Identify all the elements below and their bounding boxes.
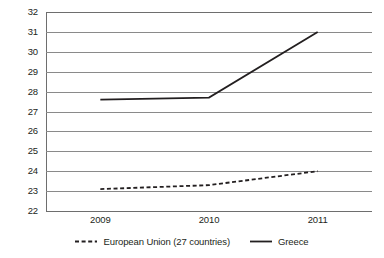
y-tick-label-29: 29 <box>0 67 38 77</box>
x-tick-label-2011: 2011 <box>308 214 328 225</box>
x-tick-label-2009: 2009 <box>90 214 111 225</box>
chart-legend: European Union (27 countries)Greece <box>0 232 384 250</box>
y-tick-label-27: 27 <box>0 107 38 117</box>
x-tick-label-2010: 2010 <box>199 214 220 225</box>
legend-entry-1[interactable]: European Union (27 countries) <box>75 236 229 247</box>
y-tick-label-28: 28 <box>0 87 38 97</box>
legend-label: Greece <box>278 236 309 247</box>
plot-area <box>46 12 372 211</box>
legend-label: European Union (27 countries) <box>103 236 229 247</box>
y-tick-label-22: 22 <box>0 206 38 216</box>
solid-line-icon <box>250 237 272 246</box>
series-lines <box>46 12 372 211</box>
legend-entry-2[interactable]: Greece <box>250 236 309 247</box>
y-axis-tick-labels: 2223242526272829303132 <box>0 12 40 211</box>
y-tick-label-24: 24 <box>0 166 38 176</box>
y-tick-label-30: 30 <box>0 47 38 57</box>
x-axis-tick-labels: 200920102011 <box>46 214 372 230</box>
series-line-european-union-27-countries <box>100 171 317 189</box>
gridline-22 <box>46 211 372 212</box>
y-tick-label-23: 23 <box>0 186 38 196</box>
dashed-line-icon <box>75 237 97 246</box>
y-tick-label-25: 25 <box>0 146 38 156</box>
y-tick-label-26: 26 <box>0 126 38 136</box>
series-line-greece <box>100 32 317 100</box>
y-tick-label-32: 32 <box>0 7 38 17</box>
y-tick-label-31: 31 <box>0 27 38 37</box>
line-chart: 2223242526272829303132 200920102011 Euro… <box>0 0 384 258</box>
